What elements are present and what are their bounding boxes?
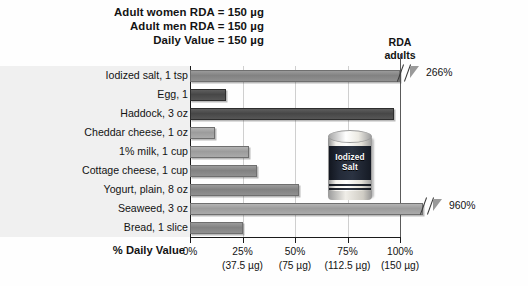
x-tick-label: 0% xyxy=(183,246,198,257)
chart-area: Iodized Salt % Daily Value 0%25%(37.5 µg… xyxy=(0,66,528,286)
category-label: Haddock, 3 oz xyxy=(3,106,188,120)
x-axis-tick xyxy=(243,237,244,243)
bar-value-label: 266% xyxy=(426,67,453,78)
category-label: 1% milk, 1 cup xyxy=(3,144,188,158)
chart-row: Cottage cheese, 1 cup xyxy=(0,161,528,180)
chart-row: Cheddar cheese, 1 oz xyxy=(0,123,528,142)
x-tick-label: 50% xyxy=(285,246,305,257)
category-label: Egg, 1 xyxy=(3,87,188,101)
category-label: Cottage cheese, 1 cup xyxy=(3,163,188,177)
x-axis-title: % Daily Value xyxy=(0,244,185,256)
category-label: Bread, 1 slice xyxy=(3,220,188,234)
bar xyxy=(190,108,394,120)
chart-row: Seaweed, 3 oz960% xyxy=(0,199,528,218)
axis-break-mark xyxy=(396,65,422,81)
x-axis-tick xyxy=(400,237,401,243)
chart-row: Haddock, 3 oz xyxy=(0,104,528,123)
bar xyxy=(190,146,249,158)
bar xyxy=(190,70,400,82)
x-tick-sublabel: (150 µg) xyxy=(381,260,419,271)
header-line-women: Adult women RDA = 150 µg xyxy=(0,5,264,19)
chart-row: Egg, 1 xyxy=(0,85,528,104)
category-label: Iodized salt, 1 tsp xyxy=(3,68,188,82)
x-tick-label: 75% xyxy=(337,246,357,257)
rda-callout-line1: RDA xyxy=(358,36,442,49)
header-line-daily-value: Daily Value = 150 µg xyxy=(0,33,264,47)
bar xyxy=(190,222,243,234)
header-line-men: Adult men RDA = 150 µg xyxy=(0,19,264,33)
chart-row: 1% milk, 1 cup xyxy=(0,142,528,161)
chart-row: Yogurt, plain, 8 oz xyxy=(0,180,528,199)
bar xyxy=(190,89,226,101)
bar xyxy=(190,127,215,139)
category-label: Cheddar cheese, 1 oz xyxy=(3,125,188,139)
x-axis-tick xyxy=(295,237,296,243)
rda-header: Adult women RDA = 150 µg Adult men RDA =… xyxy=(0,5,264,48)
x-tick-label: 25% xyxy=(232,246,252,257)
x-tick-sublabel: (112.5 µg) xyxy=(325,260,371,271)
x-tick-sublabel: (37.5 µg) xyxy=(222,260,263,271)
category-label: Yogurt, plain, 8 oz xyxy=(3,182,188,196)
chart-row: Bread, 1 slice xyxy=(0,218,528,237)
bar xyxy=(190,165,257,177)
category-label: Seaweed, 3 oz xyxy=(3,201,188,215)
x-axis-tick xyxy=(348,237,349,243)
x-axis-tick xyxy=(190,237,191,243)
bar-value-label: 960% xyxy=(449,200,476,211)
bar xyxy=(190,203,423,215)
chart-row: Iodized salt, 1 tsp266% xyxy=(0,66,528,85)
bar xyxy=(190,184,299,196)
iodine-daily-value-chart: Adult women RDA = 150 µg Adult men RDA =… xyxy=(0,0,528,286)
x-tick-label: 100% xyxy=(387,246,413,257)
axis-break-mark xyxy=(419,198,445,214)
x-tick-sublabel: (75 µg) xyxy=(279,260,311,271)
